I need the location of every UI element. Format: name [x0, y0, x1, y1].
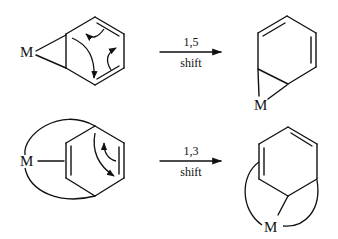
curved-shift-arrows: [72, 29, 116, 78]
reactant-2: M: [20, 119, 124, 199]
molecule-bonds: [36, 17, 124, 85]
reactant-1: M: [20, 17, 124, 85]
arrow-label-top: 1,5: [184, 35, 199, 49]
arrow-label-bottom: shift: [180, 56, 202, 70]
product-1: M: [254, 16, 316, 113]
product-2: M: [245, 127, 318, 235]
molecule-bonds: [258, 16, 316, 99]
reaction-arrow-1: 1,5 shift: [160, 35, 221, 70]
arrow-label-bottom: shift: [180, 165, 202, 179]
metal-label: M: [264, 219, 277, 235]
molecule-bonds: [25, 119, 124, 199]
reaction-scheme: M 1,5 shift: [0, 0, 338, 239]
metal-label: M: [254, 97, 267, 113]
metal-label: M: [20, 44, 33, 60]
metal-label: M: [20, 153, 33, 169]
curved-shift-arrows: [94, 133, 116, 176]
molecule-bonds: [245, 127, 318, 226]
arrow-label-top: 1,3: [184, 144, 199, 158]
reaction-arrow-2: 1,3 shift: [160, 144, 221, 179]
